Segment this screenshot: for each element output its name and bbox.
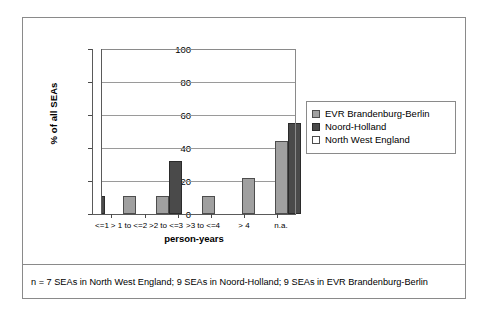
legend-swatch-evr-icon <box>312 110 320 118</box>
legend-item-noord-holland: Noord-Holland <box>312 122 451 132</box>
x-tick-mark-3 <box>211 214 212 218</box>
bar-evr-gt4 <box>242 178 255 214</box>
y-axis-line <box>92 49 93 215</box>
axis-break-gap <box>93 49 101 215</box>
legend-label-noord-holland: Noord-Holland <box>325 122 386 132</box>
x-tick-mark-1 <box>145 214 146 218</box>
bar-evr-3to4 <box>202 196 215 214</box>
y-tick-mark-60 <box>88 115 92 116</box>
x-axis-line <box>92 214 296 215</box>
legend-item-evr-brandenburg-berlin: EVR Brandenburg-Berlin <box>312 109 451 119</box>
chart-area: % of all SEAs 100 80 60 40 20 0 <box>23 18 467 264</box>
x-axis-title: person-years <box>92 233 296 244</box>
y-tick-mark-80 <box>88 82 92 83</box>
x-tick-mark-2 <box>178 214 179 218</box>
x-tick-mark-0 <box>111 214 112 218</box>
gridline-60 <box>92 115 296 116</box>
gridline-100 <box>92 49 296 50</box>
gridline-40 <box>92 148 296 149</box>
caption-bar: n = 7 SEAs in North West England; 9 SEAs… <box>23 264 465 298</box>
gridline-20 <box>92 181 296 182</box>
x-tick-mark-4 <box>244 214 245 218</box>
y-tick-mark-100 <box>88 49 92 50</box>
caption-text: n = 7 SEAs in North West England; 9 SEAs… <box>23 277 428 287</box>
legend: EVR Brandenburg-Berlin Noord-Holland Nor… <box>306 101 456 154</box>
y-tick-mark-20 <box>88 181 92 182</box>
bar-evr-2to3 <box>156 196 169 214</box>
plot-right-border <box>295 49 296 215</box>
bar-evr-na <box>275 141 288 214</box>
legend-label-north-west-england: North West England <box>325 135 410 145</box>
legend-label-evr-brandenburg-berlin: EVR Brandenburg-Berlin <box>325 109 430 119</box>
y-axis-title: % of all SEAs <box>48 54 59 174</box>
bar-noord-holland-2to3 <box>169 161 182 214</box>
legend-item-north-west-england: North West England <box>312 135 451 145</box>
legend-swatch-north-west-england-icon <box>312 136 320 144</box>
gridline-80 <box>92 82 296 83</box>
legend-swatch-noord-holland-icon <box>312 123 320 131</box>
figure-frame: % of all SEAs 100 80 60 40 20 0 <box>22 17 466 299</box>
axis-break-line <box>101 49 102 215</box>
x-tick-mark-5 <box>277 214 278 218</box>
plot-area: <=1 > 1 to <=2 >2 to <=3 >3 to <=4 > 4 n… <box>92 49 296 214</box>
y-tick-mark-0 <box>88 214 92 215</box>
figure: % of all SEAs 100 80 60 40 20 0 <box>0 0 489 316</box>
bar-evr-1to2 <box>123 196 136 214</box>
y-tick-mark-40 <box>88 148 92 149</box>
x-tick-label-na: n.a. <box>255 221 307 230</box>
